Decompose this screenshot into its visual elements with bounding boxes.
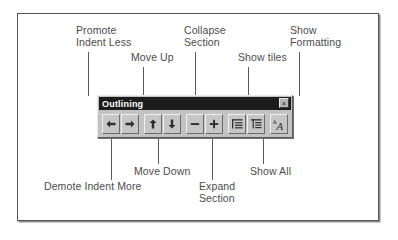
callout-label-demote: Demote Indent More — [44, 181, 142, 193]
show-formatting-button[interactable]: A A — [270, 114, 288, 134]
callout-label-expand: Expand Section — [199, 181, 235, 204]
leader-line-show-all — [263, 138, 264, 164]
callout-label-promote: Promote Indent Less — [76, 25, 131, 48]
callout-label-show-all: Show All — [250, 166, 291, 178]
move-down-button[interactable] — [163, 114, 181, 134]
minus-icon — [189, 118, 201, 130]
outlining-toolbar-window[interactable]: Outlining × — [97, 95, 293, 138]
show-tiles-button[interactable] — [228, 114, 246, 134]
move-up-button[interactable] — [144, 114, 162, 134]
show-formatting-icon: A A — [272, 118, 286, 131]
toolbar-title-bar[interactable]: Outlining × — [99, 97, 291, 110]
demote-button[interactable] — [121, 114, 139, 134]
leader-line-collapse — [195, 52, 196, 96]
toolbar-title-text: Outlining — [99, 99, 143, 109]
leader-line-promote — [88, 52, 89, 96]
callout-label-show-formatting: Show Formatting — [290, 25, 341, 48]
plus-icon — [208, 118, 220, 130]
leader-line-demote — [111, 138, 112, 180]
toolbar-button-row: A A — [98, 110, 292, 135]
leader-line-show-formatting — [299, 52, 300, 96]
svg-text:A: A — [275, 120, 283, 131]
callout-label-move-down: Move Down — [134, 166, 190, 178]
arrow-left-icon — [105, 118, 117, 130]
show-tiles-icon — [231, 118, 244, 130]
callout-label-move-up: Move Up — [131, 52, 174, 64]
expand-section-button[interactable] — [205, 114, 223, 134]
collapse-section-button[interactable] — [186, 114, 204, 134]
arrow-up-icon — [147, 118, 159, 130]
arrow-down-icon — [166, 118, 178, 130]
callout-label-show-tiles: Show tiles — [238, 52, 287, 64]
close-icon[interactable]: × — [279, 98, 289, 108]
callout-label-collapse: Collapse Section — [184, 25, 226, 48]
leader-line-move-down — [158, 138, 159, 164]
show-all-button[interactable] — [247, 114, 265, 134]
leader-line-expand — [212, 138, 213, 180]
arrow-right-icon — [124, 118, 136, 130]
show-all-icon — [250, 118, 263, 130]
promote-button[interactable] — [102, 114, 120, 134]
